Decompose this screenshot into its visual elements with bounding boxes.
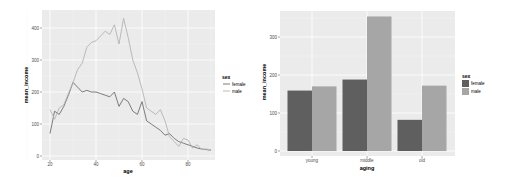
figure: 0 100 200 300 400 mean_income 20 40 60 8… — [0, 0, 509, 182]
legend-label-male: male — [232, 89, 242, 94]
legend-title: sex — [222, 74, 231, 80]
legend-label-male: male — [471, 89, 481, 94]
y-tick-label: 0 — [36, 154, 39, 159]
legend: sex female male — [222, 74, 246, 94]
legend-key-female — [462, 80, 469, 87]
y-axis: 0 100 200 300 400 mean_income — [23, 26, 39, 159]
x-tick-label: 60 — [139, 162, 145, 167]
y-tick-label: 400 — [31, 26, 39, 31]
bar-old-female — [398, 120, 423, 151]
x-axis: young middle old aging — [306, 158, 426, 171]
x-tick-label: 80 — [185, 162, 191, 167]
x-tick-label: 20 — [47, 162, 53, 167]
y-axis-title: mean_income — [261, 64, 267, 101]
legend: sex female male — [462, 73, 485, 95]
legend-label-female: female — [471, 81, 485, 86]
y-tick-label: 300 — [269, 35, 277, 40]
legend-key-male — [462, 88, 469, 95]
bar-young-male — [312, 86, 337, 151]
y-tick-label: 200 — [269, 73, 277, 78]
y-axis-title: mean_income — [23, 67, 29, 104]
bar-chart: 0 100 200 300 mean_income young middle o… — [261, 11, 485, 171]
y-tick-label: 0 — [274, 149, 277, 154]
x-axis: 20 40 60 80 age — [47, 162, 191, 174]
x-axis-title: aging — [360, 165, 375, 171]
bar-old-male — [422, 86, 447, 151]
y-tick-label: 100 — [31, 122, 39, 127]
bar-young-female — [288, 91, 313, 151]
x-tick-label: young — [306, 158, 319, 163]
y-tick-label: 200 — [31, 90, 39, 95]
bar-middle-male — [367, 16, 392, 151]
plot-panel — [42, 10, 215, 160]
y-tick-label: 100 — [269, 111, 277, 116]
line-chart: 0 100 200 300 400 mean_income 20 40 60 8… — [23, 10, 246, 174]
x-tick-label: middle — [360, 158, 374, 163]
legend-title: sex — [462, 73, 471, 79]
legend-label-female: female — [232, 82, 246, 87]
y-tick-label: 300 — [31, 58, 39, 63]
x-axis-title: age — [123, 168, 132, 174]
bar-middle-female — [343, 80, 368, 151]
x-tick-label: 40 — [93, 162, 99, 167]
y-axis: 0 100 200 300 mean_income — [261, 35, 277, 154]
x-tick-label: old — [419, 158, 426, 163]
